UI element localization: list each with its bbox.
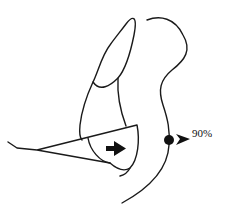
marker-dot-icon [164, 135, 174, 145]
percentage-label: 90% [192, 127, 212, 139]
body-contour-right [118, 78, 126, 126]
arrow-right-icon [106, 141, 126, 156]
inner-lobe [93, 18, 135, 87]
body-contour-left [80, 82, 93, 140]
chevron-pointer-icon [176, 134, 190, 145]
figure-caption [0, 209, 231, 216]
anatomical-diagram [0, 0, 231, 216]
